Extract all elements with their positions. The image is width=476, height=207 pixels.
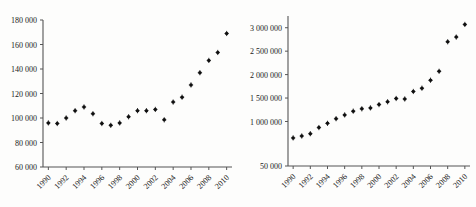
y-tick-label: 120 000 (11, 90, 37, 99)
data-point (308, 131, 312, 136)
data-point (64, 115, 68, 120)
data-point (300, 133, 304, 138)
x-tick-label: 2008 (195, 173, 213, 191)
data-point (135, 108, 139, 113)
x-tick-label: 2008 (434, 172, 452, 190)
y-tick-label: 60 000 (15, 163, 37, 172)
data-point (342, 112, 346, 117)
y-tick-label: 180 000 (11, 16, 37, 25)
data-point (437, 69, 441, 74)
x-tick-label: 2006 (417, 172, 435, 190)
data-point (55, 121, 59, 126)
figure-page: 60 00080 000100 000120 000140 000160 000… (0, 0, 476, 207)
x-tick-label: 2010 (213, 173, 231, 191)
data-point (454, 34, 458, 39)
data-point (385, 99, 389, 104)
data-point (117, 120, 121, 125)
data-point (368, 105, 372, 110)
y-tick-label: 3 000 000 (250, 24, 282, 33)
right-chart-canvas: 50 0001 000 0001 500 0002 000 0002 500 0… (238, 0, 476, 207)
data-point (126, 114, 130, 119)
data-point (109, 123, 113, 128)
data-point (91, 111, 95, 116)
left-chart-canvas: 60 00080 000100 000120 000140 000160 000… (0, 0, 238, 207)
data-point (100, 121, 104, 126)
data-point (463, 22, 467, 27)
scatter-chart-left: 60 00080 000100 000120 000140 000160 000… (0, 0, 238, 207)
x-tick-label: 2000 (124, 173, 142, 191)
y-tick-label: 50 000 (260, 162, 282, 171)
x-tick-label: 1994 (314, 172, 332, 190)
data-point (291, 135, 295, 140)
x-tick-label: 2002 (142, 173, 160, 191)
x-tick-label: 1996 (88, 173, 106, 191)
data-point (420, 86, 424, 91)
data-point (73, 108, 77, 113)
y-tick-label: 140 000 (11, 65, 37, 74)
x-tick-label: 1998 (106, 173, 124, 191)
data-point (360, 106, 364, 111)
x-tick-label: 1992 (297, 172, 315, 190)
y-tick-label: 1 500 000 (250, 94, 282, 103)
data-point (428, 78, 432, 83)
x-tick-label: 1990 (35, 173, 53, 191)
data-point (351, 109, 355, 114)
x-tick-label: 2004 (400, 172, 418, 190)
data-point (411, 89, 415, 94)
data-point (445, 39, 449, 44)
data-point (189, 82, 193, 87)
data-point (394, 96, 398, 101)
x-tick-label: 1996 (331, 172, 349, 190)
data-point (144, 108, 148, 113)
data-point (198, 70, 202, 75)
x-tick-label: 1992 (53, 173, 71, 191)
data-point (46, 120, 50, 125)
y-tick-label: 80 000 (15, 139, 37, 148)
data-point (403, 96, 407, 101)
x-tick-label: 2004 (160, 173, 178, 191)
x-tick-label: 2010 (451, 172, 469, 190)
y-tick-label: 160 000 (11, 41, 37, 50)
y-tick-label: 100 000 (11, 114, 37, 123)
data-point (207, 58, 211, 63)
y-tick-label: 1 000 000 (250, 118, 282, 127)
x-tick-label: 2000 (365, 172, 383, 190)
scatter-chart-right: 50 0001 000 0001 500 0002 000 0002 500 0… (238, 0, 476, 207)
x-tick-label: 1998 (348, 172, 366, 190)
data-point (334, 116, 338, 121)
data-point (82, 104, 86, 109)
x-tick-label: 1994 (70, 173, 88, 191)
y-tick-label: 2 500 000 (250, 47, 282, 56)
data-point (153, 107, 157, 112)
data-point (325, 121, 329, 126)
data-point (317, 125, 321, 130)
data-point (162, 117, 166, 122)
data-point (377, 102, 381, 107)
data-point (171, 99, 175, 104)
x-tick-label: 1990 (280, 172, 298, 190)
x-tick-label: 2002 (383, 172, 401, 190)
y-tick-label: 2 000 000 (250, 71, 282, 80)
data-point (180, 95, 184, 100)
data-point (224, 31, 228, 36)
data-point (216, 50, 220, 55)
x-tick-label: 2006 (177, 173, 195, 191)
